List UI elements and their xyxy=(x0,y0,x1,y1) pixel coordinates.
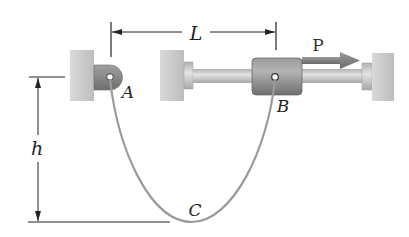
force-P: P xyxy=(302,35,360,69)
right-wall xyxy=(372,53,394,101)
middle-wall xyxy=(160,50,184,101)
label-B: B xyxy=(276,96,290,116)
arrowhead-up-icon xyxy=(35,78,41,88)
label-P: P xyxy=(312,35,323,55)
force-arrow-shaft xyxy=(302,57,342,64)
force-arrow-head-icon xyxy=(340,52,360,69)
collar-B xyxy=(252,58,302,95)
label-L: L xyxy=(189,22,203,44)
left-wall xyxy=(70,50,94,101)
label-h: h xyxy=(31,137,43,159)
dimension-h: h xyxy=(28,77,170,222)
diagram-canvas: L P A B C h xyxy=(0,0,409,237)
label-C: C xyxy=(188,200,201,220)
arrowhead-down-icon xyxy=(35,211,41,221)
rod-end-cap-right xyxy=(362,63,372,90)
arrowhead-left-icon xyxy=(112,29,122,35)
label-A: A xyxy=(120,82,134,102)
arrowhead-right-icon xyxy=(265,29,275,35)
dimension-L: L xyxy=(111,22,276,57)
left-support xyxy=(70,50,123,101)
rod-end-cap-left xyxy=(184,62,193,89)
